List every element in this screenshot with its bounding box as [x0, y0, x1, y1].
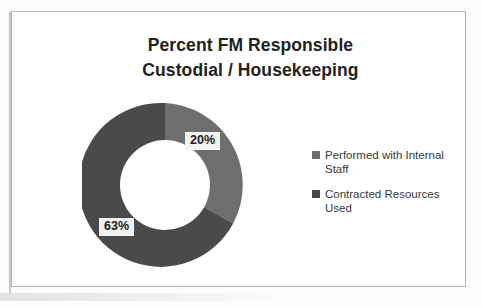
chart-title: Percent FM Responsible Custodial / House…	[23, 33, 478, 83]
legend-item-contracted-resources[interactable]: Contracted Resources Used	[312, 187, 460, 215]
legend-label: Contracted Resources Used	[325, 187, 460, 215]
chart-legend: Performed with Internal Staff Contracted…	[312, 148, 460, 226]
chart-title-line-2: Custodial / Housekeeping	[23, 58, 478, 83]
doughnut-hole	[120, 140, 210, 230]
legend-label: Performed with Internal Staff	[325, 148, 460, 176]
legend-swatch-icon	[312, 190, 320, 198]
doughnut-chart	[82, 102, 248, 268]
scan-edge-shadow-bottom	[0, 293, 300, 301]
legend-item-internal-staff[interactable]: Performed with Internal Staff	[312, 148, 460, 176]
legend-swatch-icon	[312, 151, 320, 159]
data-label-contracted-resources: 63%	[99, 218, 134, 236]
data-label-internal-staff: 20%	[185, 132, 220, 150]
chart-title-line-1: Percent FM Responsible	[148, 35, 353, 55]
doughnut-svg	[82, 102, 248, 268]
